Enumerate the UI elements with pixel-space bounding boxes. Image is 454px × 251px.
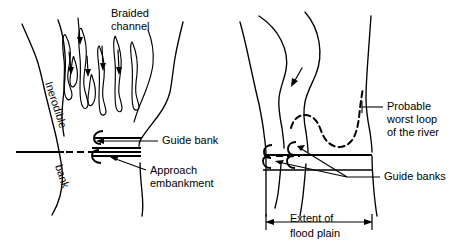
floodplain-extent-label-line2: flood plain <box>290 227 340 239</box>
right-guide-bank-right-hook <box>288 142 296 155</box>
probable-worst-loop-curve <box>291 88 363 147</box>
braided-channel-label-line1: Braided <box>111 7 149 19</box>
guide-bank-label: Guide bank <box>162 134 219 146</box>
meander-channel-right-lower <box>300 164 306 216</box>
floodplain-right-boundary-lower <box>372 156 377 216</box>
approach-embankment-label-line2: embankment <box>150 177 214 189</box>
diagram-canvas: Braided channel Inerodible bank Guide ba… <box>0 0 454 251</box>
flow-arrow-braided-2 <box>68 52 74 75</box>
bank-label: bank <box>53 163 72 190</box>
braid-island-6 <box>88 75 96 106</box>
approach-embankment-leader-line <box>113 158 146 170</box>
guide-banks-label: Guide banks <box>384 170 446 182</box>
meandering-river-panel: Probable worst loop of the river Guide b… <box>240 12 446 239</box>
probable-worst-loop-label-line1: Probable <box>387 100 431 112</box>
meander-channel-right <box>304 12 320 152</box>
figure-root: Braided channel Inerodible bank Guide ba… <box>0 0 454 251</box>
left-panel-right-bank-lower <box>140 163 143 216</box>
floodplain-extent-label-line1: Extent of <box>290 212 334 224</box>
braided-river-panel: Braided channel Inerodible bank Guide ba… <box>16 7 219 216</box>
probable-worst-loop-label-line2: worst loop <box>386 113 437 125</box>
left-panel-right-bank-upper <box>139 22 183 146</box>
braid-island-5 <box>131 42 139 110</box>
braided-channel-label-line2: channel <box>111 20 150 32</box>
guide-banks-leader-line-2 <box>300 148 347 177</box>
floodplain-left-boundary <box>240 22 266 154</box>
right-guide-bank-right-hook-lower <box>287 156 295 168</box>
approach-embankment-label-line1: Approach <box>150 164 197 176</box>
braid-island-3 <box>98 46 106 115</box>
inerodible-label: Inerodible <box>43 80 69 130</box>
flow-arrow-meander <box>291 68 302 87</box>
probable-worst-loop-label-line3: of the river <box>387 126 439 138</box>
meander-channel-left-lower <box>275 165 281 208</box>
floodplain-right-boundary <box>366 16 372 152</box>
braid-island-4 <box>114 36 122 111</box>
